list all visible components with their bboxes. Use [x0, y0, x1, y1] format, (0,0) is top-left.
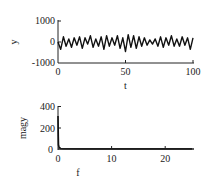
y-tick-label: -1000: [32, 57, 55, 68]
x-tick-label: 100: [186, 66, 201, 77]
x-tick-label: 50: [121, 66, 131, 77]
y-tick-label: 200: [40, 123, 55, 134]
y-tick-label: 0: [50, 36, 55, 47]
time-plot: 1000 0 -1000 0 50 100 t y: [8, 15, 201, 91]
figure: 1000 0 -1000 0 50 100 t y 400 200 0 0 10…: [0, 0, 212, 189]
y-tick-label: 1000: [35, 15, 55, 26]
x-tick-label: 20: [160, 153, 170, 164]
y-tick-label: 0: [48, 144, 53, 155]
y-axis-label: magy: [17, 117, 28, 139]
signal-line: [58, 35, 193, 52]
x-tick-label: 10: [107, 153, 117, 164]
spectrum-line: [58, 116, 192, 149]
y-tick-label: 400: [40, 101, 55, 112]
spectrum-plot: 400 200 0 0 10 20 f magy: [17, 101, 194, 178]
y-axis-label: y: [8, 40, 19, 45]
x-axis-label: t: [124, 80, 127, 91]
x-axis-label: f: [76, 167, 80, 178]
x-tick-label: 0: [56, 66, 61, 77]
x-tick-label: 0: [56, 153, 61, 164]
